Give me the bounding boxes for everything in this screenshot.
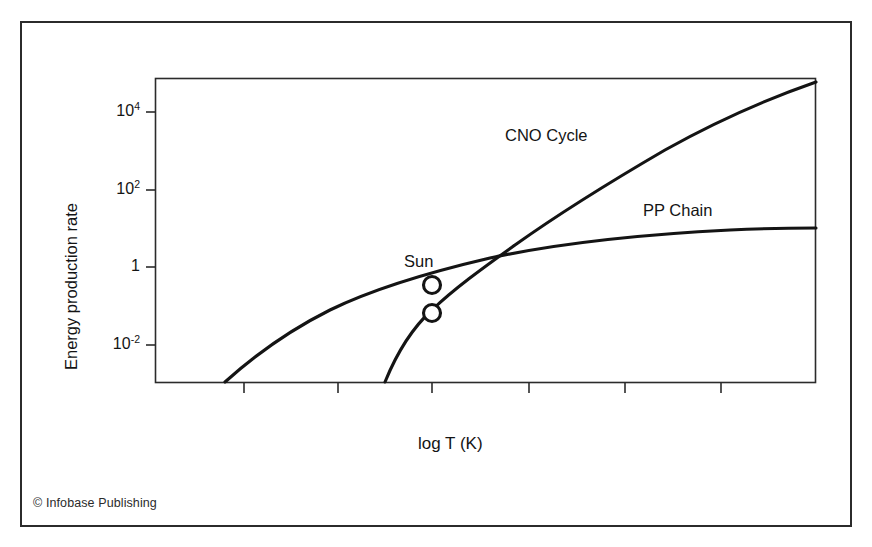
sun-marker-cno-cycle xyxy=(424,305,441,322)
y-tick-label-10e2: 102 xyxy=(96,181,140,197)
figure-canvas: 104 102 1 10-2 Energy production rate lo… xyxy=(0,0,872,547)
y-axis-ticks xyxy=(146,112,156,345)
x-axis-title: log T (K) xyxy=(418,434,483,454)
y-tick-label-10e4-base: 10 xyxy=(116,102,134,119)
curve-cno-cycle xyxy=(385,82,816,382)
y-tick-label-1: 1 xyxy=(96,258,140,274)
y-tick-label-1-base: 1 xyxy=(131,257,140,274)
curve-label-pp-chain: PP Chain xyxy=(643,201,712,220)
y-tick-label-10e-2: 10-2 xyxy=(90,336,140,352)
y-tick-label-10e4: 104 xyxy=(96,103,140,119)
sun-marker-pp-chain xyxy=(424,277,441,294)
curve-label-cno-cycle: CNO Cycle xyxy=(505,126,588,145)
y-tick-label-10e4-exp: 4 xyxy=(134,100,140,112)
copyright-credit: © Infobase Publishing xyxy=(33,496,157,510)
y-tick-label-10e-2-exp: -2 xyxy=(131,333,140,345)
annotation-label-sun: Sun xyxy=(404,252,433,271)
y-tick-label-10e-2-base: 10 xyxy=(113,335,131,352)
y-axis-title: Energy production rate xyxy=(62,203,81,370)
curve-pp-chain xyxy=(225,228,816,382)
y-tick-label-10e2-exp: 2 xyxy=(134,178,140,190)
x-axis-ticks xyxy=(244,383,721,394)
y-tick-label-10e2-base: 10 xyxy=(116,180,134,197)
